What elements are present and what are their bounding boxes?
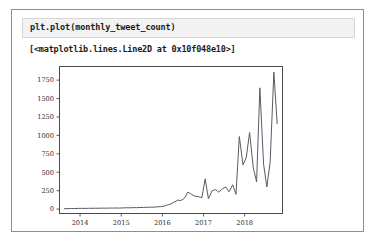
x-tick-label: 2017 [195, 219, 212, 227]
y-tick-label: 1000 [37, 132, 54, 140]
matplotlib-figure: 02505007501000125015001750 2014201520162… [21, 60, 321, 228]
axes: 02505007501000125015001750 2014201520162… [37, 67, 282, 227]
x-tick-label: 2014 [72, 219, 89, 227]
code-input-text[interactable]: plt.plot(monthly_tweet_count) [30, 22, 176, 32]
line-chart: 02505007501000125015001750 2014201520162… [21, 60, 321, 228]
code-input-cell[interactable]: plt.plot(monthly_tweet_count) [22, 18, 355, 38]
x-tick-label: 2015 [113, 219, 130, 227]
x-tick-label: 2016 [154, 219, 171, 227]
x-tick-label: 2018 [236, 219, 253, 227]
cell-output-repr: [<matplotlib.lines.Line2D at 0x10f048e10… [29, 44, 236, 54]
x-axis-ticks: 20142015201620172018 [72, 214, 253, 227]
series-line-monthly-tweet-count [64, 72, 277, 209]
y-tick-label: 500 [41, 169, 54, 177]
y-tick-label: 750 [41, 150, 54, 158]
y-tick-label: 250 [41, 187, 54, 195]
y-tick-label: 1250 [37, 113, 54, 121]
y-tick-label: 0 [50, 205, 54, 213]
y-axis-ticks: 02505007501000125015001750 [37, 76, 59, 213]
y-tick-label: 1750 [37, 76, 54, 84]
notebook-cell: plt.plot(monthly_tweet_count) [<matplotl… [11, 9, 364, 232]
y-tick-label: 1500 [37, 95, 54, 103]
